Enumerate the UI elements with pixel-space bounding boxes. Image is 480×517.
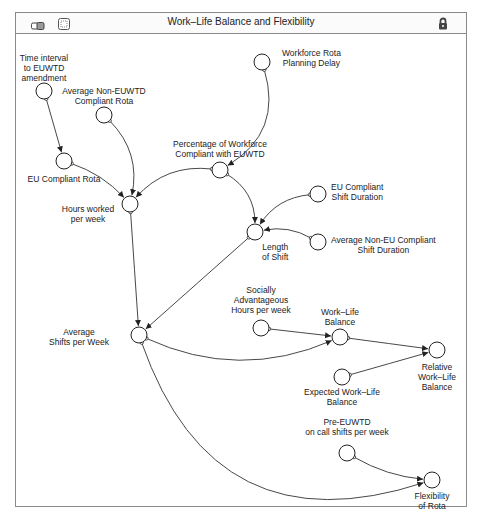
node-label-avg-non-euwtd-rota: Average Non-EUWTDCompliant Rota <box>62 86 145 106</box>
node-label-flexibility: Flexibilityof Rota <box>415 491 450 511</box>
node-eu-compliant-rota[interactable] <box>56 153 72 169</box>
node-label-workforce-delay: Workforce RotaPlanning Delay <box>282 48 341 68</box>
link-arrow[interactable] <box>146 237 249 329</box>
link-arrow[interactable] <box>264 229 311 238</box>
link-arrow[interactable] <box>260 195 310 225</box>
node-relative-wlb[interactable] <box>429 342 445 358</box>
node-label-hours-worked: Hours workedper week <box>62 204 114 224</box>
node-label-eu-shift-duration: EU CompliantShift Duration <box>331 182 383 202</box>
link-arrow[interactable] <box>269 329 331 336</box>
node-label-avg-non-eu-shift: Average Non-EU CompliantShift Duration <box>331 235 436 255</box>
node-label-avg-shifts: AverageShifts per Week <box>49 327 109 347</box>
node-eu-shift-duration[interactable] <box>310 186 326 202</box>
link-arrow[interactable] <box>146 338 331 360</box>
node-wlb[interactable] <box>332 329 348 345</box>
node-label-pct-compliant: Percentage of WorkforceCompliant with EU… <box>173 139 267 159</box>
node-label-wlb: Work–LifeBalance <box>321 307 359 327</box>
node-expected-wlb[interactable] <box>334 369 350 385</box>
node-pct-compliant[interactable] <box>212 162 228 178</box>
link-arrow[interactable] <box>46 99 61 153</box>
node-flexibility[interactable] <box>424 472 440 488</box>
link-arrow[interactable] <box>354 457 423 479</box>
link-arrow[interactable] <box>350 352 429 374</box>
node-hours-worked[interactable] <box>122 196 138 212</box>
node-time-interval[interactable] <box>36 83 52 99</box>
node-label-eu-compliant-rota: EU Compliant Rota <box>28 174 101 184</box>
node-label-social-hours: SociallyAdvantageousHours per week <box>231 285 291 315</box>
node-avg-non-eu-shift[interactable] <box>310 234 326 250</box>
link-arrow[interactable] <box>348 338 428 349</box>
node-avg-shifts[interactable] <box>131 327 147 343</box>
node-label-time-interval: Time intervalto EUWTDamendment <box>20 53 68 83</box>
causal-loop-diagram <box>0 0 480 517</box>
node-label-expected-wlb: Expected Work–LifeBalance <box>304 387 380 407</box>
node-label-relative-wlb: RelativeWork–LifeBalance <box>418 362 456 392</box>
node-social-hours[interactable] <box>253 320 269 336</box>
node-avg-non-euwtd-rota[interactable] <box>96 107 112 123</box>
node-length-of-shift[interactable] <box>247 224 263 240</box>
node-pre-euwtd[interactable] <box>339 445 355 461</box>
link-arrow[interactable] <box>227 174 255 223</box>
link-arrow[interactable] <box>110 121 134 196</box>
node-workforce-delay[interactable] <box>254 54 270 70</box>
link-arrow[interactable] <box>136 168 212 197</box>
link-arrow[interactable] <box>131 212 139 326</box>
node-label-pre-euwtd: Pre-EUWTDon call shifts per week <box>305 417 389 437</box>
node-label-length-of-shift: Lengthof Shift <box>262 242 288 262</box>
